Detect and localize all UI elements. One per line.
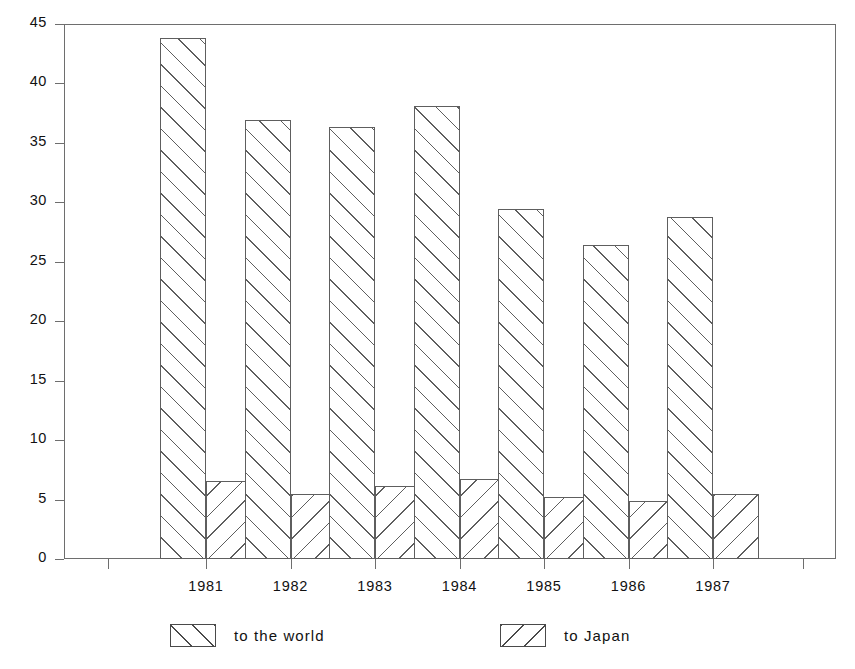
legend-label-to-the-world: to the world [234,627,325,644]
legend-item-to-the-world: to the world [170,624,325,647]
x-axis-tick-mark [629,559,630,569]
legend-swatch-to-japan-icon [500,624,546,647]
y-axis-tick-label: 45 [30,14,47,30]
y-axis-tick-label: 5 [38,490,47,506]
bar-1981-to-the-world [160,38,206,559]
legend-label-to-japan: to Japan [564,627,630,644]
x-axis-tick-label: 1981 [188,578,223,594]
y-axis-tick-label: 15 [30,371,47,387]
x-axis-tick-mark [206,559,207,569]
x-axis-tick-mark [460,559,461,569]
x-axis-tick-mark [375,559,376,569]
bar-1985-to-the-world [498,209,544,559]
bar-1984-to-the-world [414,106,460,559]
legend-item-to-japan: to Japan [500,624,630,647]
y-axis-tick-label: 40 [30,73,47,89]
y-axis-tick-mark [55,202,64,203]
x-axis-tick-label: 1985 [526,578,561,594]
bar-chart: 051015202530354045 198119821983198419851… [0,0,855,669]
y-axis-tick-mark [55,83,64,84]
chart-legend: to the world to Japan [0,624,855,664]
bar-1987-to-the-world [667,217,713,559]
x-axis-tick-mark [713,559,714,569]
bar-1983-to-the-world [329,127,375,559]
bar-1987-to-japan [713,494,759,559]
y-axis-tick-mark [55,262,64,263]
bar-1986-to-the-world [583,245,629,559]
y-axis-tick-mark [55,559,64,560]
y-axis-tick-label: 10 [30,430,47,446]
x-axis-tick-mark [803,559,804,569]
y-axis-tick-mark [55,500,64,501]
x-axis-tick-label: 1986 [611,578,646,594]
y-axis-tick-mark [55,24,64,25]
legend-swatch-to-the-world-icon [170,624,216,647]
y-axis-tick-label: 35 [30,133,47,149]
y-axis-tick-mark [55,440,64,441]
x-axis-tick-mark [108,559,109,569]
y-axis-tick-mark [55,143,64,144]
bar-1982-to-the-world [245,120,291,559]
x-axis-tick-mark [291,559,292,569]
x-axis-tick-label: 1984 [442,578,477,594]
y-axis-tick-label: 30 [30,192,47,208]
x-axis-tick-mark [544,559,545,569]
x-axis-tick-label: 1982 [273,578,308,594]
y-axis-tick-mark [55,381,64,382]
y-axis-tick-label: 20 [30,311,47,327]
x-axis-tick-label: 1987 [695,578,730,594]
y-axis-tick-label: 0 [38,549,47,565]
y-axis-tick-mark [55,321,64,322]
y-axis-tick-label: 25 [30,252,47,268]
x-axis-tick-label: 1983 [357,578,392,594]
